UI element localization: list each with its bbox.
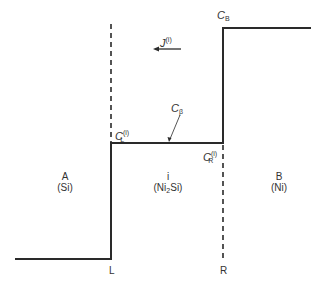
region-a-label: A (Si) bbox=[50, 171, 80, 193]
region-i-label: i (Ni2Si) bbox=[148, 171, 188, 196]
concentration-profile-line bbox=[15, 28, 311, 259]
c-l-label: C(i)L bbox=[115, 127, 124, 145]
c-b-label: CB bbox=[217, 10, 230, 24]
c-r-label: C(i)R bbox=[203, 148, 213, 166]
c-beta-label: Cβ bbox=[171, 103, 183, 117]
interface-left-label: L bbox=[109, 265, 115, 276]
flux-arrowhead-icon bbox=[153, 47, 159, 52]
interface-right-label: R bbox=[220, 265, 227, 276]
region-b-label: B (Ni) bbox=[264, 171, 294, 193]
flux-label: J(i) bbox=[160, 34, 172, 49]
c-beta-pointer bbox=[170, 115, 180, 139]
